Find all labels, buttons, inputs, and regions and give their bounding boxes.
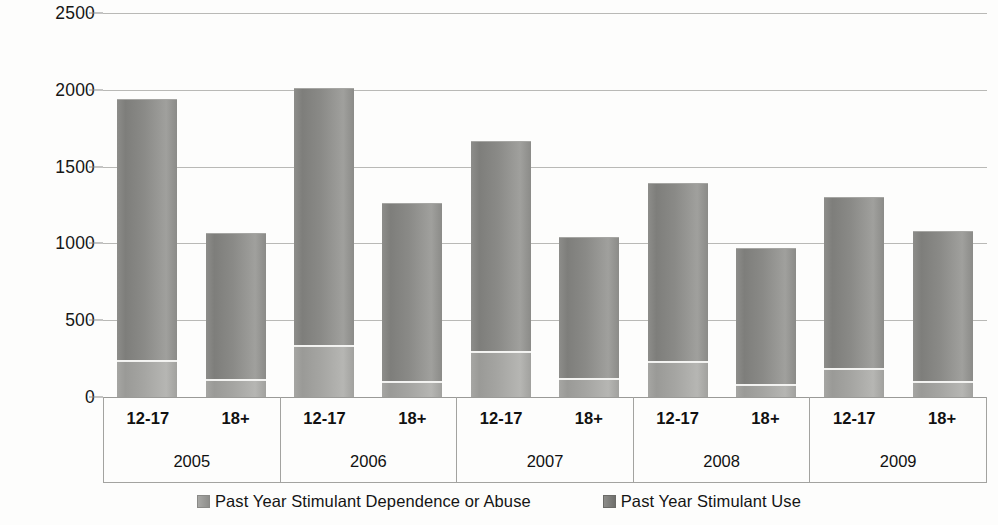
bar-segment-dependence-or-abuse bbox=[206, 380, 266, 397]
legend-swatch-icon bbox=[603, 495, 616, 508]
bar-segment-stimulant-use bbox=[913, 231, 973, 382]
bar-segment-stimulant-use bbox=[736, 248, 796, 385]
bar-column bbox=[382, 203, 442, 397]
bar-segment-dependence-or-abuse bbox=[294, 346, 354, 397]
x-axis-year-row: 20052006200720082009 bbox=[104, 440, 986, 483]
bar-column bbox=[824, 197, 884, 397]
bar-column bbox=[648, 183, 708, 397]
x-axis-age-label: 12-17 bbox=[104, 397, 192, 440]
x-axis-age-label: 12-17 bbox=[281, 397, 369, 440]
y-axis-tick-label: 2000 bbox=[9, 79, 95, 100]
bar-segment-stimulant-use bbox=[648, 183, 708, 362]
x-axis-year-label: 2009 bbox=[810, 440, 986, 483]
y-axis-tick-label: 1500 bbox=[9, 156, 95, 177]
x-axis-age-label: 18+ bbox=[192, 397, 280, 440]
y-axis-tick-mark bbox=[89, 397, 103, 398]
bar-segment-dependence-or-abuse bbox=[736, 385, 796, 397]
y-axis-tick-mark bbox=[89, 89, 103, 90]
stacked-bar-chart: 05001000150020002500 12-1718+12-1718+12-… bbox=[0, 0, 998, 525]
bar-segment-stimulant-use bbox=[206, 233, 266, 380]
x-axis-age-label: 18+ bbox=[545, 397, 633, 440]
bars-layer bbox=[103, 13, 987, 397]
x-axis-age-label: 12-17 bbox=[810, 397, 898, 440]
chart-legend: Past Year Stimulant Dependence or AbuseP… bbox=[0, 492, 998, 511]
bar-segment-stimulant-use bbox=[294, 88, 354, 347]
bar-segment-stimulant-use bbox=[824, 197, 884, 369]
legend-label: Past Year Stimulant Dependence or Abuse bbox=[215, 492, 531, 511]
bar-segment-dependence-or-abuse bbox=[913, 382, 973, 397]
y-axis-tick-label: 500 bbox=[9, 310, 95, 331]
x-axis-year-label: 2006 bbox=[281, 440, 458, 483]
plot-area bbox=[103, 13, 987, 397]
bar-segment-dependence-or-abuse bbox=[559, 379, 619, 397]
y-axis-tick-mark bbox=[89, 320, 103, 321]
legend-swatch-icon bbox=[197, 495, 210, 508]
bar-column bbox=[471, 141, 531, 398]
y-axis-tick-label: 2500 bbox=[9, 3, 95, 24]
x-axis-age-label: 12-17 bbox=[457, 397, 545, 440]
x-axis-group-cell: 12-1718+ bbox=[810, 397, 986, 440]
legend-label: Past Year Stimulant Use bbox=[621, 492, 801, 511]
bar-column bbox=[913, 231, 973, 397]
y-axis-tick-mark bbox=[89, 13, 103, 14]
x-axis-age-label: 18+ bbox=[368, 397, 456, 440]
x-axis: 12-1718+12-1718+12-1718+12-1718+12-1718+… bbox=[103, 397, 987, 483]
x-axis-year-label: 2005 bbox=[104, 440, 281, 483]
x-axis-group-cell: 12-1718+ bbox=[634, 397, 811, 440]
x-axis-group-cell: 12-1718+ bbox=[104, 397, 281, 440]
bar-segment-stimulant-use bbox=[559, 237, 619, 379]
x-axis-age-row: 12-1718+12-1718+12-1718+12-1718+12-1718+ bbox=[104, 397, 986, 440]
x-axis-group-cell: 12-1718+ bbox=[281, 397, 458, 440]
bar-segment-dependence-or-abuse bbox=[382, 382, 442, 397]
bar-segment-stimulant-use bbox=[117, 99, 177, 361]
bar-column bbox=[736, 248, 796, 397]
bar-column bbox=[117, 99, 177, 397]
bar-column bbox=[559, 237, 619, 398]
x-axis-year-label: 2007 bbox=[457, 440, 634, 483]
bar-segment-dependence-or-abuse bbox=[824, 369, 884, 397]
y-axis: 05001000150020002500 bbox=[0, 13, 95, 397]
bar-segment-stimulant-use bbox=[382, 203, 442, 382]
y-axis-tick-label: 1000 bbox=[9, 233, 95, 254]
y-axis-tick-label: 0 bbox=[9, 387, 95, 408]
bar-column bbox=[206, 233, 266, 397]
x-axis-year-label: 2008 bbox=[634, 440, 811, 483]
bar-segment-stimulant-use bbox=[471, 141, 531, 352]
legend-item: Past Year Stimulant Use bbox=[603, 492, 801, 511]
x-axis-age-label: 12-17 bbox=[634, 397, 722, 440]
bar-segment-dependence-or-abuse bbox=[471, 352, 531, 397]
x-axis-age-label: 18+ bbox=[722, 397, 810, 440]
y-axis-tick-mark bbox=[89, 243, 103, 244]
bar-column bbox=[294, 88, 354, 398]
legend-item: Past Year Stimulant Dependence or Abuse bbox=[197, 492, 531, 511]
x-axis-group-cell: 12-1718+ bbox=[457, 397, 634, 440]
y-axis-tick-mark bbox=[89, 166, 103, 167]
bar-segment-dependence-or-abuse bbox=[117, 361, 177, 397]
bar-segment-dependence-or-abuse bbox=[648, 362, 708, 397]
x-axis-age-label: 18+ bbox=[898, 397, 986, 440]
